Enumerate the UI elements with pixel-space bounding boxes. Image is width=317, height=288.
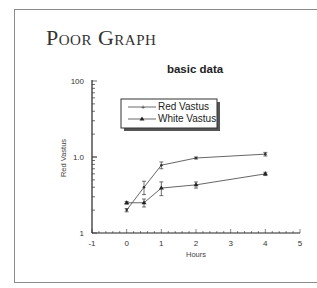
- x-tick-label: 3: [228, 239, 233, 248]
- x-axis-label: Hours: [186, 250, 206, 259]
- series-lines: [124, 152, 268, 211]
- legend-item-red-vastus: Red Vastus: [158, 101, 209, 112]
- data-point: [160, 164, 163, 167]
- data-point: [195, 157, 198, 160]
- y-tick-label: 1.0: [73, 153, 85, 162]
- x-tick-label: 5: [298, 239, 303, 248]
- x-tick-label: 0: [124, 239, 129, 248]
- svg-text:+: +: [141, 104, 145, 111]
- y-tick-label: 1: [80, 229, 85, 238]
- chart: basic data 11.0100-1012345 + Red Vastus …: [0, 0, 317, 288]
- x-tick-label: -1: [88, 239, 96, 248]
- chart-title: basic data: [167, 63, 224, 75]
- x-tick-label: 4: [263, 239, 268, 248]
- y-tick-label: 100: [71, 77, 85, 86]
- legend: + Red Vastus White Vastus: [121, 99, 220, 131]
- x-tick-label: 1: [159, 239, 164, 248]
- legend-item-white-vastus: White Vastus: [158, 113, 216, 124]
- x-tick-label: 2: [194, 239, 199, 248]
- data-point: [143, 186, 146, 189]
- data-point: [125, 209, 128, 212]
- y-axis-label: Red Vastus: [59, 139, 68, 177]
- data-point: [264, 153, 267, 156]
- data-point: [124, 200, 129, 204]
